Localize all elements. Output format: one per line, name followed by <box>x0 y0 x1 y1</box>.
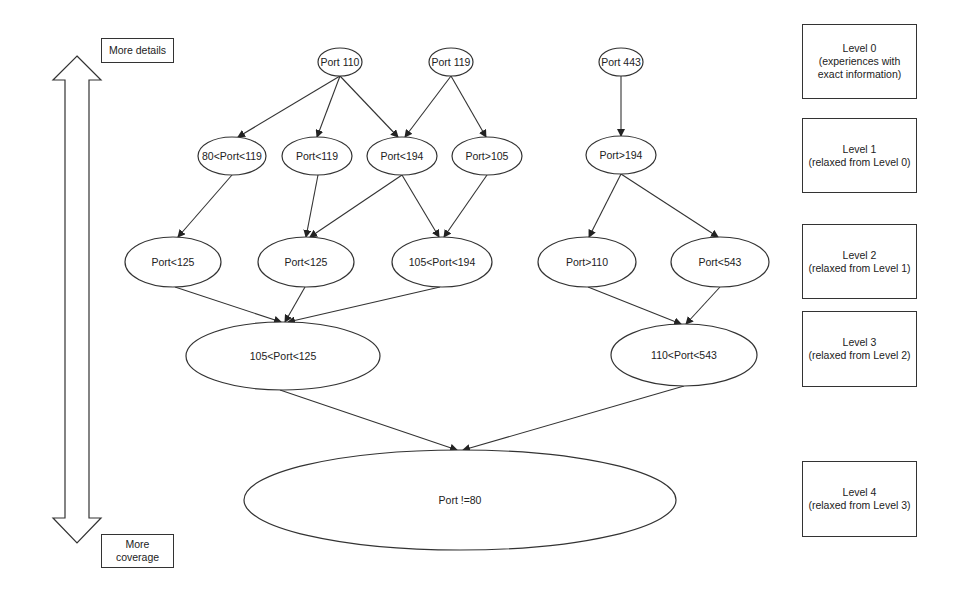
node-80-port-119: 80<Port<119 <box>198 137 266 175</box>
level-0-desc-2: exact information) <box>818 68 901 81</box>
level-0-title: Level 0 <box>843 42 877 55</box>
node-port-lt-543: Port<543 <box>671 237 769 287</box>
level-3-box: Level 3 (relaxed from Level 2) <box>802 311 917 387</box>
node-port-lt-119: Port<119 <box>282 137 352 175</box>
svg-text:105<Port<125: 105<Port<125 <box>250 350 317 362</box>
node-port-gt-110: Port>110 <box>538 237 636 287</box>
level-4-title: Level 4 <box>843 486 877 499</box>
edge-n5-n9 <box>310 175 402 237</box>
edge-n5-n10 <box>402 175 439 237</box>
svg-text:Port<119: Port<119 <box>296 150 338 162</box>
svg-text:Port>110: Port>110 <box>566 256 608 268</box>
edge-n11-n14 <box>588 287 681 324</box>
level-4-desc: (relaxed from Level 3) <box>808 499 910 512</box>
level-3-desc: (relaxed from Level 2) <box>808 349 910 362</box>
node-port-lt-125-a: Port<125 <box>125 237 221 287</box>
edge-n1-n5 <box>405 76 451 137</box>
svg-text:Port 119: Port 119 <box>432 56 471 68</box>
level-2-desc: (relaxed from Level 1) <box>808 262 910 275</box>
more-coverage-text-2: coverage <box>116 551 159 564</box>
svg-text:Port<543: Port<543 <box>699 256 742 268</box>
level-0-desc-1: (experiences with <box>819 55 901 68</box>
level-3-title: Level 3 <box>843 336 877 349</box>
svg-text:Port<125: Port<125 <box>152 256 195 268</box>
edge-n7-n12 <box>621 174 718 237</box>
edge-n13-n15 <box>280 390 457 450</box>
node-port-lt-125-b: Port<125 <box>258 237 354 287</box>
svg-text:Port>194: Port>194 <box>600 149 643 161</box>
level-0-box: Level 0 (experiences with exact informat… <box>802 24 917 99</box>
level-1-desc: (relaxed from Level 0) <box>808 156 910 169</box>
edge-n3-n8 <box>178 175 232 237</box>
detail-coverage-double-arrow-icon <box>53 56 101 543</box>
svg-text:80<Port<119: 80<Port<119 <box>202 150 262 162</box>
edge-n7-n11 <box>589 174 621 237</box>
edge-n12-n14 <box>686 287 720 324</box>
svg-text:105<Port<194: 105<Port<194 <box>409 256 476 268</box>
node-port-119: Port 119 <box>429 48 473 76</box>
node-port-443: Port 443 <box>599 48 643 76</box>
svg-text:Port>105: Port>105 <box>466 150 509 162</box>
node-110-port-543: 110<Port<543 <box>611 324 757 386</box>
node-port-110: Port 110 <box>318 48 362 76</box>
svg-text:Port 443: Port 443 <box>601 56 641 68</box>
more-coverage-label: More coverage <box>101 534 174 568</box>
node-105-port-125: 105<Port<125 <box>186 322 380 390</box>
level-2-title: Level 2 <box>843 249 877 262</box>
svg-text:Port !=80: Port !=80 <box>439 494 482 506</box>
level-4-box: Level 4 (relaxed from Level 3) <box>802 461 917 537</box>
edge-n0-n3 <box>238 76 340 137</box>
level-1-title: Level 1 <box>843 143 877 156</box>
node-port-gt-194: Port>194 <box>586 136 656 174</box>
edge-n14-n15 <box>463 386 684 450</box>
level-1-box: Level 1 (relaxed from Level 0) <box>802 118 917 193</box>
node-port-gt-105: Port>105 <box>452 137 522 175</box>
svg-text:Port<125: Port<125 <box>285 256 328 268</box>
edge-n0-n5 <box>340 76 398 137</box>
more-coverage-text-1: More <box>126 538 150 551</box>
more-details-label: More details <box>101 38 174 63</box>
svg-text:Port 110: Port 110 <box>321 56 360 68</box>
more-details-text: More details <box>109 44 166 57</box>
edge-n6-n10 <box>444 175 487 237</box>
node-port-not-80: Port !=80 <box>244 450 676 550</box>
node-105-port-194: 105<Port<194 <box>392 237 492 287</box>
edge-n10-n13 <box>288 287 440 322</box>
edge-n1-n6 <box>451 76 486 137</box>
edge-n0-n4 <box>317 76 340 137</box>
edge-n4-n9 <box>306 175 318 237</box>
level-2-box: Level 2 (relaxed from Level 1) <box>802 224 917 299</box>
edge-n8-n13 <box>175 287 281 322</box>
svg-text:110<Port<543: 110<Port<543 <box>651 349 717 361</box>
edge-n9-n13 <box>285 287 305 322</box>
svg-text:Port<194: Port<194 <box>381 150 424 162</box>
node-port-lt-194: Port<194 <box>367 137 437 175</box>
